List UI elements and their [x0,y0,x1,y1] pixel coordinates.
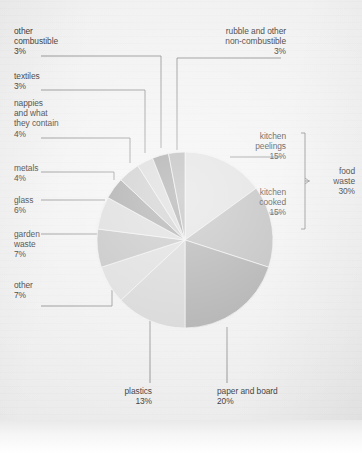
label-other: other 7% [14,280,33,300]
label-textiles-pct: 3% [14,81,26,91]
label-other-pct: 7% [14,290,26,300]
leader-metals [41,172,114,180]
label-garden-waste-pct: 7% [14,249,26,259]
label-paper-and-board-pct: 20% [217,396,234,406]
label-glass-pct: 6% [14,205,26,215]
label-kitchen-cooked: kitchen cooked 15% [226,187,286,218]
label-garden-waste: garden waste 7% [14,229,40,260]
page-bottom-margin [0,420,362,453]
pie-chart-graphic [0,0,362,453]
label-glass: glass 6% [14,195,33,215]
label-plastics-name: plastics [124,386,152,396]
label-textiles-name: textiles [14,71,40,81]
label-kitchen-peelings: kitchen peelings 15% [226,131,286,162]
label-kitchen-peelings-name: kitchen peelings [255,131,286,151]
label-paper-and-board-name: paper and board [217,386,278,396]
label-metals-pct: 4% [14,173,26,183]
leader-other [41,290,112,306]
label-nappies-pct: 4% [14,129,26,139]
leader-nappies [41,138,130,163]
label-garden-waste-name: garden waste [14,229,40,249]
chart-figure: other combustible 3% textiles 3% nappies… [0,0,362,453]
bracket-food-waste [301,133,305,229]
label-kitchen-cooked-name: kitchen cooked [259,187,286,207]
label-paper-and-board: paper and board 20% [217,386,278,406]
label-kitchen-peelings-pct: 15% [269,151,286,161]
label-other-combustible-name: other combustible [14,26,58,46]
label-metals: metals 4% [14,163,38,183]
pie-slices [97,152,273,328]
label-textiles: textiles 3% [14,71,40,91]
label-plastics: plastics 13% [88,386,152,406]
label-other-combustible-pct: 3% [14,46,26,56]
label-rubble: rubble and other non-combustible 3% [181,26,286,57]
label-nappies: nappies and what they contain 4% [14,98,59,139]
label-kitchen-cooked-pct: 15% [269,207,286,217]
label-nappies-name: nappies and what they contain [14,98,59,128]
label-food-waste: food waste 30% [311,166,355,197]
label-glass-name: glass [14,195,33,205]
label-rubble-pct: 3% [274,46,286,56]
label-other-name: other [14,280,33,290]
label-food-waste-pct: 30% [338,186,355,196]
leader-other-combustible [41,56,161,148]
label-other-combustible: other combustible 3% [14,26,58,57]
label-plastics-pct: 13% [135,396,152,406]
label-food-waste-name: food waste [333,166,355,186]
label-metals-name: metals [14,163,38,173]
label-rubble-name: rubble and other non-combustible [225,26,286,46]
